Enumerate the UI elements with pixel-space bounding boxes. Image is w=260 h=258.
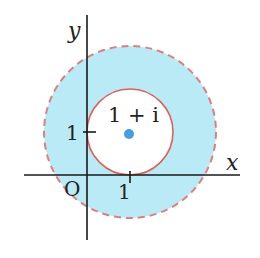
complex-plane-diagram: y x O 1 1 1 + i	[0, 0, 260, 258]
y-tick-label: 1	[66, 121, 79, 145]
center-point-dot	[124, 129, 134, 139]
x-axis-label: x	[226, 150, 239, 175]
center-point-label: 1 + i	[108, 103, 159, 127]
x-tick-label: 1	[118, 180, 131, 204]
diagram-svg: y x O 1 1 1 + i	[0, 0, 260, 258]
y-axis-label: y	[67, 18, 81, 43]
origin-label: O	[64, 177, 80, 201]
